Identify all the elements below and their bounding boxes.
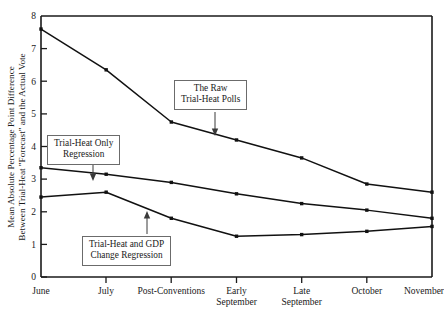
data-point — [235, 138, 238, 141]
x-tick-label: Post-Conventions — [137, 286, 205, 296]
y-tick-label: 8 — [31, 11, 36, 21]
data-point — [365, 182, 368, 185]
arrowhead-up-icon — [144, 211, 150, 219]
series-line-2 — [41, 192, 432, 236]
series-0 — [39, 27, 433, 194]
x-tick-label: Late — [293, 286, 310, 296]
data-point — [104, 68, 107, 71]
y-axis-ticks: 0 1 2 3 4 5 6 7 8 — [31, 11, 47, 282]
x-tick-label: October — [351, 286, 382, 296]
annotation-line-2: Change Regression — [89, 250, 164, 261]
x-axis-ticks: June July Post-Conventions Early Septemb… — [32, 277, 444, 307]
x-tick-label: Early — [226, 286, 247, 296]
y-axis-title-line1: Mean Absolute Percentage Point Differenc… — [6, 66, 16, 228]
data-point — [365, 208, 368, 211]
data-point — [170, 217, 173, 220]
data-point — [235, 192, 238, 195]
y-tick-label: 5 — [31, 109, 36, 119]
data-point — [430, 190, 433, 193]
data-point — [170, 120, 173, 123]
data-point — [365, 230, 368, 233]
data-point — [104, 173, 107, 176]
y-axis-title-line2: Between Trial-Heat "Forecast" and the Ac… — [17, 53, 27, 240]
y-tick-label: 7 — [31, 44, 36, 54]
y-tick-label: 0 — [31, 272, 36, 282]
data-series-layer — [39, 27, 433, 238]
y-tick-label: 4 — [31, 142, 36, 152]
y-axis-title: Mean Absolute Percentage Point Differenc… — [6, 53, 27, 240]
chart-figure: Mean Absolute Percentage Point Differenc… — [0, 0, 444, 310]
data-point — [170, 181, 173, 184]
series-line-0 — [41, 29, 432, 192]
y-tick-label: 6 — [31, 77, 36, 87]
data-point — [430, 217, 433, 220]
annotation-line-1: The Raw — [181, 83, 240, 94]
annotation-line-2: Regression — [54, 149, 113, 160]
series-2 — [39, 190, 433, 237]
x-tick-label-sub: September — [281, 297, 322, 307]
y-tick-label: 1 — [31, 240, 36, 250]
y-tick-label: 3 — [31, 174, 36, 184]
annotation-line-1: Trial-Heat Only — [54, 138, 113, 149]
data-point — [300, 202, 303, 205]
data-point — [104, 190, 107, 193]
y-tick-label: 2 — [31, 207, 36, 217]
annotation-trial-heat-gdp-change-regression: Trial-Heat and GDP Change Regression — [82, 236, 171, 266]
data-point — [300, 156, 303, 159]
annotation-raw-trial-heat-polls: The Raw Trial-Heat Polls — [174, 80, 247, 110]
arrowhead-down-icon — [90, 174, 96, 182]
annotation-line-1: Trial-Heat and GDP — [89, 239, 164, 250]
x-tick-label: June — [32, 286, 49, 296]
x-tick-label: November — [404, 286, 444, 296]
data-point — [430, 225, 433, 228]
x-tick-label-sub: September — [216, 297, 257, 307]
annotation-line-2: Trial-Heat Polls — [181, 94, 240, 105]
data-point — [39, 166, 42, 169]
data-point — [39, 195, 42, 198]
annotation-trial-heat-only-regression: Trial-Heat Only Regression — [47, 135, 120, 165]
x-tick-label: July — [98, 286, 114, 296]
data-point — [39, 27, 42, 30]
data-point — [300, 233, 303, 236]
data-point — [235, 235, 238, 238]
